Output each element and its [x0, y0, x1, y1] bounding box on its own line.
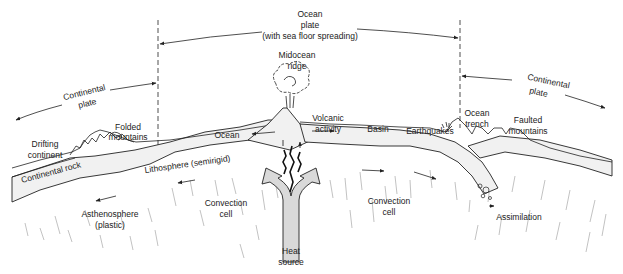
midocean-ridge-label-2: ridge: [288, 61, 307, 71]
continental-plate-right-label-2: plate: [529, 85, 549, 99]
folded-mountains-label-2: mountains: [108, 132, 147, 142]
plate-extent-arrows: [16, 29, 605, 120]
convection-arrow-left-2: [96, 196, 116, 201]
earthquakes-label: Earthquakes: [406, 126, 454, 136]
continental-plate-right-arrow-right: [565, 95, 605, 108]
convection-cell-right-label-2: cell: [383, 207, 396, 217]
ocean-plate-label-2: plate: [301, 20, 320, 30]
ocean-label: Ocean: [214, 130, 239, 140]
convection-cell-left-label-1: Convection: [205, 198, 248, 208]
volcanic-activity-label-2: activity: [315, 124, 342, 134]
convection-cell-right-label-1: Convection: [368, 196, 411, 206]
asthenosphere-label-1: Asthenosphere: [81, 209, 138, 219]
ocean-trench-label-1: Ocean: [464, 108, 489, 118]
continental-plate-right-arrow-left: [462, 76, 512, 80]
convection-arrow-right-1: [362, 170, 384, 171]
heat-source-label-1: Heat: [282, 246, 301, 256]
ocean-plate-label-1: Ocean: [297, 9, 322, 19]
continental-plate-left-arrow-right: [110, 83, 156, 90]
midocean-ridge-label-1: Midocean: [279, 50, 316, 60]
faulted-mountains-label-1: Faulted: [514, 115, 543, 125]
basin-label: Basin: [367, 124, 389, 134]
continental-plate-left-arrow-left: [16, 105, 62, 120]
faulted-mountains-label-2: mountains: [508, 126, 547, 136]
volcanic-activity-label-1: Volcanic: [312, 113, 344, 123]
drifting-continent-label-2: continent: [28, 150, 63, 160]
convection-cell-left-label-2: cell: [220, 209, 233, 219]
subducting-slab: [300, 124, 498, 194]
heat-source-label-2: source: [278, 257, 304, 267]
ocean-plate-arrow-right: [357, 29, 458, 38]
drifting-continent-label-1: Drifting: [32, 139, 59, 149]
asthenosphere-label-2: (plastic): [95, 220, 125, 230]
ocean-trench-label-2: trench: [465, 119, 489, 129]
plate-tectonics-diagram: Ocean plate (with sea floor spreading) C…: [0, 0, 623, 274]
assimilation-label: Assimilation: [496, 212, 542, 222]
ocean-plate-arrow-left: [160, 32, 262, 44]
ocean-plate-label-3: (with sea floor spreading): [262, 31, 358, 41]
convection-arrow-right-2: [414, 172, 436, 179]
convection-arrow-left-1: [178, 180, 195, 183]
lithosphere-right: [468, 136, 612, 176]
folded-mountains-label-1: Folded: [115, 122, 141, 132]
